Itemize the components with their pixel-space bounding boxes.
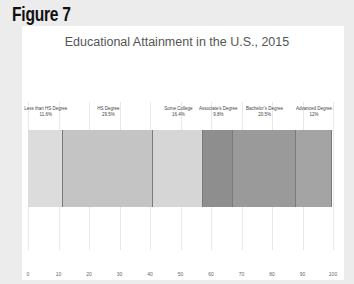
x-tick-label: 100	[329, 271, 337, 277]
x-tick-label: 70	[239, 271, 245, 277]
x-tick-label: 20	[86, 271, 92, 277]
x-tick-label: 90	[300, 271, 306, 277]
x-tick-label: 0	[27, 271, 30, 277]
x-tick-label: 80	[269, 271, 275, 277]
bar-segment	[153, 130, 203, 207]
segment-value: 16.4%	[164, 112, 192, 118]
chart-title: Educational Attainment in the U.S., 2015	[0, 35, 354, 49]
bar-segment	[296, 130, 333, 207]
figure-label: Figure 7	[12, 3, 71, 26]
bar-segment	[233, 130, 296, 207]
bar-segment	[28, 130, 63, 207]
segment-value: 20.5%	[246, 112, 283, 118]
x-tick-label: 10	[56, 271, 62, 277]
segment-label: HS Degree29.5%	[97, 106, 119, 118]
segment-value: 29.5%	[97, 112, 119, 118]
segment-label: Some College16.4%	[164, 106, 192, 118]
segment-value: 12%	[296, 112, 332, 118]
segment-value: 11.6%	[24, 112, 67, 118]
segment-label: Associate's Degree9.8%	[199, 106, 238, 118]
x-tick-label: 40	[147, 271, 153, 277]
x-tick-label: 60	[208, 271, 214, 277]
segment-label: Less than HS Degree11.6%	[24, 106, 67, 118]
segment-label: Bachelor's Degree20.5%	[246, 106, 283, 118]
x-tick-label: 30	[117, 271, 123, 277]
bar-segment	[203, 130, 233, 207]
bar-segment	[63, 130, 153, 207]
gridline	[333, 102, 334, 250]
segment-value: 9.8%	[199, 112, 238, 118]
x-tick-label: 50	[178, 271, 184, 277]
segment-label: Advanced Degree12%	[296, 106, 332, 118]
